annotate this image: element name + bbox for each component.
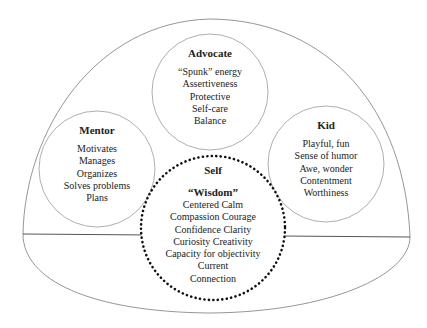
mentor-item: Motivates — [42, 143, 152, 155]
self-item: Confidence Clarity — [148, 224, 278, 236]
advocate-item: Self-care — [155, 103, 265, 115]
self-part: Self “Wisdom” Centered Calm Compassion C… — [148, 164, 278, 285]
self-item: Centered Calm — [148, 199, 278, 211]
advocate-item: Assertiveness — [155, 78, 265, 90]
mentor-part: Mentor Motivates Manages Organizes Solve… — [42, 124, 152, 204]
kid-item: Playful, fun — [271, 138, 381, 150]
mentor-item: Solves problems — [42, 180, 152, 192]
self-title: Self — [148, 164, 278, 177]
mentor-item: Plans — [42, 192, 152, 204]
advocate-item: “Spunk” energy — [155, 66, 265, 78]
mentor-item: Manages — [42, 155, 152, 167]
advocate-item: Balance — [155, 115, 265, 127]
self-item: Curiosity Creativity — [148, 236, 278, 248]
self-item: Connection — [148, 273, 278, 285]
kid-title: Kid — [271, 119, 381, 132]
advocate-item: Protective — [155, 91, 265, 103]
advocate-title: Advocate — [155, 47, 265, 60]
kid-item: Sense of humor — [271, 150, 381, 162]
self-item: Current — [148, 260, 278, 272]
self-item: Capacity for objectivity — [148, 248, 278, 260]
self-subtitle: “Wisdom” — [148, 186, 278, 199]
kid-item: Contentment — [271, 175, 381, 187]
advocate-part: Advocate “Spunk” energy Assertiveness Pr… — [155, 47, 265, 127]
mentor-item: Organizes — [42, 168, 152, 180]
self-item: Compassion Courage — [148, 211, 278, 223]
kid-item: Awe, wonder — [271, 163, 381, 175]
mentor-title: Mentor — [42, 124, 152, 137]
kid-item: Worthiness — [271, 187, 381, 199]
kid-part: Kid Playful, fun Sense of humor Awe, won… — [271, 119, 381, 199]
